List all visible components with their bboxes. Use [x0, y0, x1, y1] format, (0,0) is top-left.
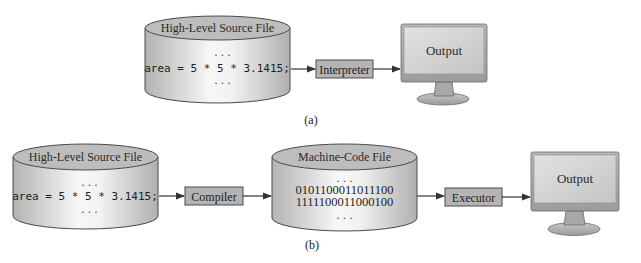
monitor-icon: Output — [531, 152, 619, 236]
caption-a: (a) — [304, 113, 317, 127]
source-file-cylinder: High-Level Source File ... area = 5 * 5 … — [144, 16, 290, 103]
monitor-icon: Output — [401, 24, 487, 105]
machine-code-file-cylinder: Machine-Code File ... 0101100011011100 1… — [272, 144, 417, 231]
source-file-title: High-Level Source File — [161, 21, 274, 35]
source-file-title: High-Level Source File — [29, 150, 142, 164]
machine-code-line-2: 1111100011000100 — [296, 195, 394, 209]
caption-b: (b) — [305, 238, 319, 252]
executor-box: Executor — [445, 188, 502, 206]
compiler-label: Compiler — [191, 190, 236, 204]
source-code-line: area = 5 * 5 * 3.1415; — [12, 190, 158, 203]
source-file-cylinder: High-Level Source File ... area = 5 * 5 … — [12, 144, 158, 229]
ellipsis-bottom: ... — [213, 76, 232, 86]
ellipsis-top: ... — [80, 178, 99, 188]
interpreter-label: Interpreter — [319, 63, 370, 77]
machine-code-file-title: Machine-Code File — [298, 150, 391, 164]
diagram-b: High-Level Source File ... area = 5 * 5 … — [12, 144, 619, 252]
ellipsis-bottom: ... — [335, 211, 354, 221]
compiler-box: Compiler — [185, 187, 243, 205]
interpreter-box: Interpreter — [316, 60, 373, 78]
executor-label: Executor — [452, 191, 495, 205]
source-code-line: area = 5 * 5 * 3.1415; — [144, 62, 290, 75]
output-label: Output — [557, 171, 594, 186]
output-label: Output — [426, 43, 463, 58]
ellipsis-bottom: ... — [80, 205, 99, 215]
ellipsis-top: ... — [213, 48, 232, 58]
diagram-a: High-Level Source File ... area = 5 * 5 … — [144, 16, 487, 127]
